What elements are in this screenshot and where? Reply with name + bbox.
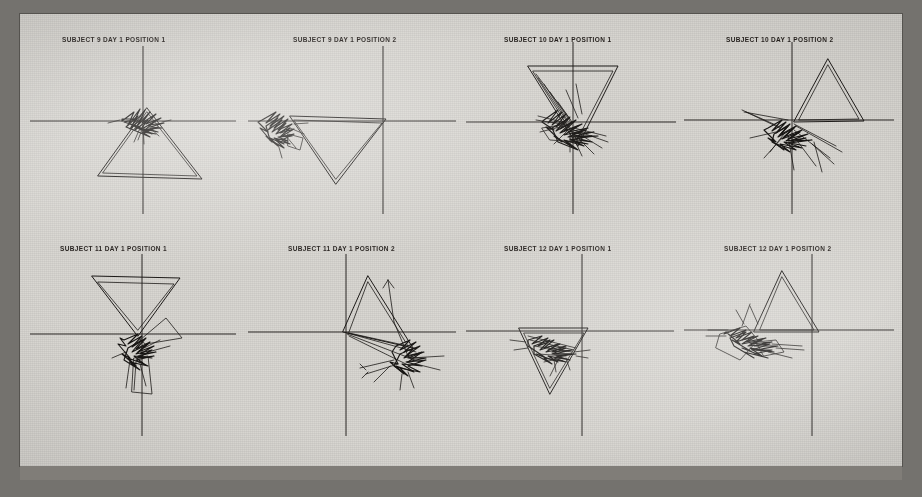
triangle-outline [794, 59, 864, 122]
triangle-outline [98, 108, 202, 179]
panel-label: SUBJECT 9 DAY 1 POSITION 2 [293, 36, 396, 43]
figure-root: SUBJECT 9 DAY 1 POSITION 1 SUBJECT 9 DAY… [0, 0, 922, 497]
panel-label: SUBJECT 10 DAY 1 POSITION 2 [726, 36, 833, 43]
panel-subject-10-day-1-position-2: SUBJECT 10 DAY 1 POSITION 2 [684, 24, 896, 220]
panel-subject-9-day-1-position-1: SUBJECT 9 DAY 1 POSITION 1 [30, 24, 242, 220]
panel-label: SUBJECT 9 DAY 1 POSITION 1 [62, 36, 165, 43]
plate-bottom-edge [20, 466, 902, 480]
triangle-outline-inner [98, 282, 174, 330]
trajectory-cluster-2 [394, 348, 426, 376]
panel-subject-11-day-1-position-2: SUBJECT 11 DAY 1 POSITION 2 [248, 236, 460, 446]
panel-label: SUBJECT 12 DAY 1 POSITION 2 [724, 245, 831, 252]
panel-label: SUBJECT 12 DAY 1 POSITION 1 [504, 245, 611, 252]
panel-subject-12-day-1-position-2: SUBJECT 12 DAY 1 POSITION 2 [684, 236, 896, 446]
triangle-outline-inner [294, 120, 382, 179]
triangle-outline-inner [799, 65, 859, 120]
triangle-outline-inner [103, 112, 197, 176]
panel-subject-10-day-1-position-1: SUBJECT 10 DAY 1 POSITION 1 [466, 24, 678, 220]
panel-subject-12-day-1-position-1: SUBJECT 12 DAY 1 POSITION 1 [466, 236, 678, 446]
trajectory-cluster-2 [124, 340, 154, 370]
trajectory-lines [347, 322, 420, 366]
panel-label: SUBJECT 10 DAY 1 POSITION 1 [504, 36, 611, 43]
panel-label: SUBJECT 11 DAY 1 POSITION 1 [60, 245, 167, 252]
figure-plate: SUBJECT 9 DAY 1 POSITION 1 SUBJECT 9 DAY… [20, 14, 902, 466]
trajectory-cluster-2 [730, 332, 772, 358]
triangle-outline-inner [760, 277, 814, 330]
panel-subject-11-day-1-position-1: SUBJECT 11 DAY 1 POSITION 1 [30, 236, 242, 446]
panel-label: SUBJECT 11 DAY 1 POSITION 2 [288, 245, 395, 252]
panel-subject-9-day-1-position-2: SUBJECT 9 DAY 1 POSITION 2 [248, 24, 460, 220]
triangle-outline [290, 116, 386, 184]
triangle-outline [519, 328, 588, 394]
trajectory-polygon-right [140, 318, 182, 344]
